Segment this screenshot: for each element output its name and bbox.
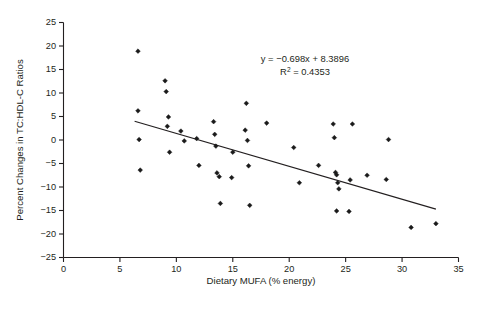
- y-tick-label: −5: [46, 158, 56, 168]
- data-point: [332, 135, 337, 140]
- data-point: [167, 150, 172, 155]
- data-point: [247, 203, 252, 208]
- data-point: [245, 138, 250, 143]
- data-point: [138, 168, 143, 173]
- y-tick-label: −20: [40, 229, 56, 239]
- y-tick-label: 10: [46, 88, 56, 98]
- data-point: [384, 177, 389, 182]
- y-tick-label: −15: [40, 205, 56, 215]
- x-axis-ticks: 05101520253035: [61, 258, 464, 274]
- x-tick-label: 0: [61, 264, 66, 274]
- data-point: [212, 132, 217, 137]
- data-point: [350, 122, 355, 127]
- data-point: [337, 187, 342, 192]
- regression-trend-line: [135, 121, 436, 209]
- y-tick-label: −10: [40, 182, 56, 192]
- data-point: [218, 201, 223, 206]
- r-squared-label: R2 = 0.4353: [280, 66, 330, 77]
- data-point: [297, 180, 302, 185]
- y-tick-label: 15: [46, 64, 56, 74]
- data-point: [229, 175, 234, 180]
- plot-canvas: −25−20−15−10−50510152025 05101520253035 …: [0, 0, 481, 316]
- data-point: [179, 129, 184, 134]
- data-point-group: [136, 49, 439, 230]
- x-tick-label: 5: [117, 264, 122, 274]
- data-point: [211, 119, 216, 124]
- x-tick-label: 10: [171, 264, 181, 274]
- data-point: [347, 209, 352, 214]
- x-tick-label: 35: [453, 264, 463, 274]
- data-point: [182, 139, 187, 144]
- y-tick-label: 0: [51, 135, 56, 145]
- data-point: [348, 178, 353, 183]
- data-point: [165, 124, 170, 129]
- data-point: [264, 121, 269, 126]
- data-point: [365, 173, 370, 178]
- y-tick-label: 5: [51, 111, 56, 121]
- data-point: [136, 109, 141, 114]
- x-tick-label: 25: [341, 264, 351, 274]
- data-point: [386, 137, 391, 142]
- regression-equation-label: y = −0.698x + 8.3896: [261, 53, 349, 64]
- data-point: [334, 209, 339, 214]
- y-tick-label: 20: [46, 41, 56, 51]
- data-point: [409, 225, 414, 230]
- data-point: [164, 89, 169, 94]
- data-point: [136, 49, 141, 54]
- data-point: [243, 128, 248, 133]
- r-squared-value: = 0.4353: [291, 66, 330, 77]
- y-tick-label: 25: [46, 17, 56, 27]
- y-tick-label: −25: [40, 252, 56, 262]
- data-point: [217, 174, 222, 179]
- data-point: [291, 145, 296, 150]
- y-axis-ticks: −25−20−15−10−50510152025: [40, 17, 63, 262]
- y-axis-title: Percent Changes in TC:HDL-C Ratios: [14, 59, 25, 221]
- x-axis-title: Dietary MUFA (% energy): [207, 275, 316, 286]
- data-point: [163, 78, 168, 83]
- data-point: [137, 137, 142, 142]
- data-point: [166, 115, 171, 120]
- x-tick-label: 20: [284, 264, 294, 274]
- data-point: [197, 163, 202, 168]
- data-point: [316, 163, 321, 168]
- data-point: [215, 171, 220, 176]
- scatter-plot-figure: −25−20−15−10−50510152025 05101520253035 …: [0, 0, 481, 316]
- data-point: [244, 101, 249, 106]
- data-point: [331, 122, 336, 127]
- data-point: [246, 164, 251, 169]
- x-tick-label: 30: [397, 264, 407, 274]
- x-tick-label: 15: [228, 264, 238, 274]
- data-point: [434, 221, 439, 226]
